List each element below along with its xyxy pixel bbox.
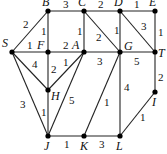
graph-diagram: 21433121211312213551421113 SBCDEFAGTHIJK… — [0, 0, 167, 154]
edge-weight: 2 — [23, 18, 29, 30]
edge-weight: 2 — [96, 31, 102, 43]
node-label: F — [36, 38, 45, 52]
node-label: J — [44, 139, 50, 153]
edge-weight: 4 — [124, 81, 130, 93]
edge-weight: 3 — [141, 20, 147, 32]
edge-weight: 1 — [140, 111, 146, 123]
node-label: C — [78, 0, 87, 9]
edge-S-J — [12, 52, 48, 136]
edge-weight: 2 — [51, 63, 57, 75]
edge-weight: 1 — [27, 39, 33, 51]
edge-weight: 1 — [134, 0, 140, 10]
node-label: S — [2, 36, 8, 50]
edge-weight: 1 — [63, 56, 69, 68]
edge-weight: 2 — [63, 39, 69, 51]
edge-weight: 1 — [77, 25, 83, 37]
edge-weight: 3 — [20, 98, 26, 110]
node-label: G — [124, 39, 133, 53]
edge-weight: 4 — [32, 58, 38, 70]
edge-I-L — [120, 92, 155, 136]
edge-weight: 3 — [97, 55, 103, 67]
node-A — [81, 49, 86, 54]
node-L — [117, 133, 122, 138]
node-E — [152, 8, 157, 13]
edge-weight: 1 — [158, 26, 164, 38]
edges-layer — [12, 11, 155, 136]
node-T — [152, 49, 157, 54]
edge-weight: 1 — [114, 24, 120, 36]
edge-weight: 5 — [69, 94, 75, 106]
edge-weight: 5 — [134, 55, 140, 67]
node-label: D — [113, 0, 123, 9]
node-label: H — [50, 89, 61, 103]
node-label: A — [71, 38, 80, 52]
edge-weight: 2 — [158, 71, 164, 83]
weights-layer: 21433121211312213551421113 — [20, 0, 164, 150]
graph-canvas: 21433121211312213551421113 SBCDEFAGTHIJK… — [0, 0, 167, 154]
edge-weight: 2 — [98, 0, 104, 10]
node-label: B — [42, 0, 50, 9]
node-label: L — [115, 139, 123, 153]
node-label: E — [148, 0, 157, 9]
node-I — [152, 89, 157, 94]
edge-weight: 1 — [104, 96, 110, 108]
node-G — [117, 49, 122, 54]
node-B — [45, 8, 50, 13]
node-H — [45, 87, 50, 92]
node-J — [45, 133, 50, 138]
edge-weight: 1 — [64, 138, 70, 150]
node-label: T — [158, 46, 166, 60]
node-K — [81, 133, 86, 138]
node-C — [81, 8, 86, 13]
node-S — [9, 49, 14, 54]
edge-weight: 3 — [99, 138, 105, 150]
edge-S-H — [12, 52, 48, 90]
node-F — [45, 49, 50, 54]
edge-weight: 1 — [41, 106, 47, 118]
edge-weight: 3 — [63, 0, 69, 10]
node-label: K — [79, 139, 89, 153]
node-label: I — [151, 95, 157, 109]
edge-weight: 1 — [41, 25, 47, 37]
node-D — [117, 8, 122, 13]
